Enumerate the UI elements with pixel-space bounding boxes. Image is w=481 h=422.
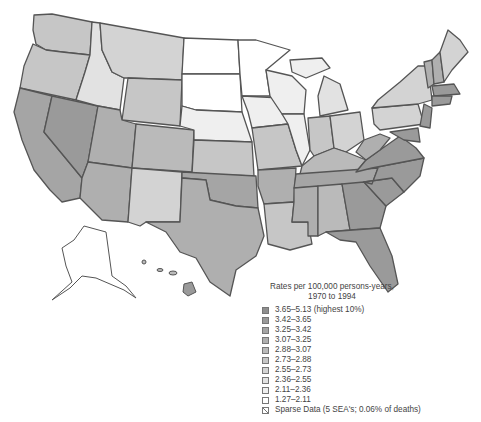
legend-label: 2.88–3.07	[275, 345, 311, 355]
legend-item: 1.27–2.11	[262, 395, 477, 405]
legend-swatch	[262, 347, 269, 354]
state-mt	[100, 23, 184, 80]
legend-swatch	[262, 307, 269, 314]
legend-item: 3.65–5.13 (highest 10%)	[262, 305, 477, 315]
legend-swatch	[262, 327, 269, 334]
legend-label: 2.11–2.36	[275, 385, 311, 395]
state-ct-ri	[432, 96, 452, 106]
legend-label: 2.73–2.88	[275, 355, 311, 365]
legend-item: 2.55–2.73	[262, 365, 477, 375]
legend-swatch	[262, 367, 269, 374]
legend-label: 3.65–5.13 (highest 10%)	[275, 305, 364, 315]
legend-item: 3.42–3.65	[262, 315, 477, 325]
legend-title-line1: Rates per 100,000 persons-years,	[262, 282, 402, 292]
state-ak	[52, 226, 136, 300]
legend-item: 2.11–2.36	[262, 385, 477, 395]
state-nj	[420, 104, 432, 128]
legend-item: 3.07–3.25	[262, 335, 477, 345]
legend-title-line2: 1970 to 1994	[262, 292, 402, 302]
state-ks	[192, 140, 254, 176]
legend-label: 3.25–3.42	[275, 325, 311, 335]
state-hi-2	[157, 269, 163, 272]
sparse-data-swatch	[262, 407, 269, 414]
state-hi-3	[169, 271, 177, 275]
legend-item: 2.73–2.88	[262, 355, 477, 365]
legend-title: Rates per 100,000 persons-years, 1970 to…	[262, 282, 402, 302]
legend-swatch	[262, 357, 269, 364]
state-oh	[330, 112, 364, 152]
state-co	[132, 124, 194, 172]
legend-item: 2.88–3.07	[262, 345, 477, 355]
legend-label: 1.27–2.11	[275, 395, 311, 405]
state-hi-1	[142, 260, 146, 264]
legend-list: 3.65–5.13 (highest 10%) 3.42–3.65 3.25–3…	[262, 305, 477, 415]
state-ny	[372, 66, 432, 108]
state-az	[80, 162, 132, 222]
state-wy	[122, 78, 182, 126]
legend-label: 2.55–2.73	[275, 365, 311, 375]
state-sd	[182, 74, 242, 112]
state-nm	[128, 168, 182, 226]
legend-label: 3.42–3.65	[275, 315, 311, 325]
legend-item: 2.36–2.55	[262, 375, 477, 385]
legend-item: Sparse Data (5 SEA's; 0.06% of deaths)	[262, 405, 477, 415]
state-ar	[258, 168, 296, 204]
state-nd	[182, 38, 240, 74]
legend-swatch	[262, 397, 269, 404]
legend-label: 2.36–2.55	[275, 375, 311, 385]
legend-swatch	[262, 387, 269, 394]
legend-swatch	[262, 377, 269, 384]
state-mi-upper	[290, 58, 330, 78]
state-hi-big	[183, 282, 196, 296]
legend-label: 3.07–3.25	[275, 335, 311, 345]
state-mi	[318, 76, 348, 116]
legend-swatch	[262, 337, 269, 344]
legend: Rates per 100,000 persons-years, 1970 to…	[262, 282, 477, 415]
legend-item: 3.25–3.42	[262, 325, 477, 335]
state-me	[440, 30, 468, 82]
legend-swatch	[262, 317, 269, 324]
legend-label: Sparse Data (5 SEA's; 0.06% of deaths)	[275, 405, 421, 415]
state-ma	[432, 84, 460, 96]
